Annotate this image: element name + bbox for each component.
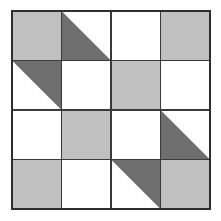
cell-r3c2 (62, 110, 112, 160)
cell-r1c1 (12, 11, 62, 61)
cell-r3c3 (111, 110, 161, 160)
cell-r2c4 (161, 61, 211, 111)
cell-r4c2 (62, 160, 112, 210)
quilt-figure (0, 0, 221, 221)
cell-r1c4 (161, 11, 211, 61)
cell-r2c2 (62, 61, 112, 111)
cell-r4c4 (161, 160, 211, 210)
cell-r1c3 (111, 11, 161, 61)
cell-r4c1 (12, 160, 62, 210)
cell-r3c1 (12, 110, 62, 160)
cell-r2c3 (111, 61, 161, 111)
quilt-grid (0, 0, 221, 221)
